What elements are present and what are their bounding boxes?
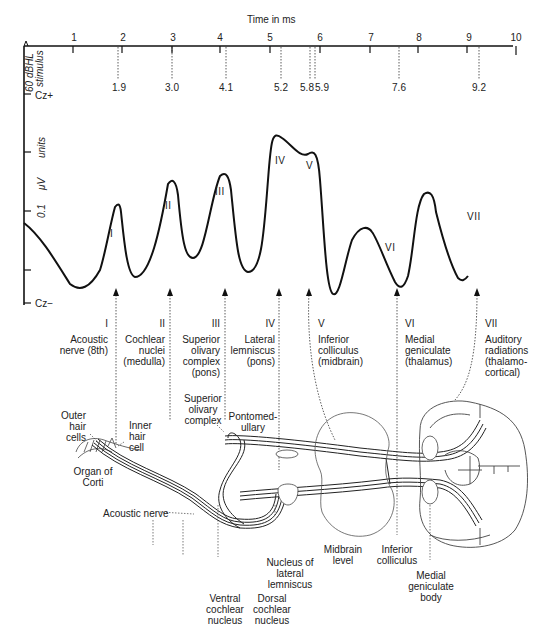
generator-line: Lateral	[220, 334, 275, 345]
generator-line: complex	[165, 356, 220, 367]
label-acoustic-nerve: Acoustic nerve	[103, 508, 169, 519]
generator-roman: I	[48, 318, 108, 329]
wave-label-iv: IV	[275, 155, 285, 166]
label-line: Inferior	[370, 544, 424, 555]
label-line: lemniscus	[262, 579, 318, 590]
scale-unit-label: μV	[36, 178, 47, 190]
scale-units-label: units	[36, 137, 47, 158]
wave-label-vi: VI	[385, 242, 395, 253]
generator-line: colliculus	[318, 345, 383, 356]
label-line: Nucleus of	[262, 557, 318, 568]
x-tick: 10	[510, 32, 521, 43]
label-line: olivary	[178, 404, 228, 415]
label-line: geniculate	[403, 581, 459, 592]
generator-iii: III Superior olivary complex (pons)	[165, 318, 220, 378]
x-axis-title: Time in ms	[247, 14, 296, 25]
label-ventral-cochlear-nucleus: Ventral cochlear nucleus	[203, 593, 247, 626]
cz-minus-label: Cz−	[35, 298, 53, 309]
label-pontomedullary: Pontomed- ullary	[226, 411, 280, 433]
generator-line: nuclei	[110, 345, 165, 356]
generator-i: I Acoustic nerve (8th)	[48, 318, 108, 356]
generator-roman: VII	[485, 318, 544, 329]
x-tick: 7	[368, 32, 374, 43]
x-tick: 1	[71, 32, 77, 43]
generator-roman: V	[318, 318, 383, 329]
generator-line: (midbrain)	[318, 356, 383, 367]
label-line: colliculus	[370, 555, 424, 566]
label-line: ullary	[226, 422, 280, 433]
generator-line: geniculate	[405, 345, 470, 356]
arrowheads	[113, 288, 480, 296]
wave-label-ii: II	[165, 200, 172, 211]
label-line: cochlear	[250, 604, 294, 615]
generator-roman: IV	[220, 318, 275, 329]
wave-label-vii: VII	[467, 211, 481, 222]
generator-line: Superior	[165, 334, 220, 345]
latency-value: 1.9	[112, 82, 126, 93]
label-line: Pontomed-	[226, 411, 280, 422]
cz-plus-label: Cz+	[35, 90, 53, 101]
label-inner-hair-cell: Inner hair cell	[129, 420, 169, 453]
generator-line: radiations	[485, 345, 544, 356]
generator-line: Cochlear	[110, 334, 165, 345]
latency-value: 7.6	[392, 82, 406, 93]
label-midbrain-level: Midbrain level	[318, 544, 368, 566]
wave-label-v: V	[306, 160, 313, 171]
generator-line: olivary	[165, 345, 220, 356]
x-tick: 4	[217, 32, 223, 43]
label-outer-hair-cells: Outer hair cells	[50, 410, 86, 443]
x-tick: 9	[466, 32, 472, 43]
label-medial-geniculate-body: Medial geniculate body	[403, 570, 459, 603]
label-line: cell	[129, 442, 169, 453]
generator-vii: VII Auditory radiations (thalamo- cortic…	[485, 318, 544, 378]
generator-ii: II Cochlear nuclei (medulla)	[110, 318, 165, 367]
generator-line: Medial	[405, 334, 470, 345]
stimulus-sub-label: stimulus	[34, 50, 45, 87]
generator-line: (thalamus)	[405, 356, 470, 367]
label-inferior-colliculus: Inferior colliculus	[370, 544, 424, 566]
label-line: cells	[50, 432, 86, 443]
label-line: nucleus	[203, 615, 247, 626]
generator-line: Auditory	[485, 334, 544, 345]
label-line: cochlear	[203, 604, 247, 615]
label-line: Organ of	[66, 466, 120, 477]
generator-v: V Inferior colliculus (midbrain)	[318, 318, 383, 367]
generator-roman: II	[110, 318, 165, 329]
label-line: Midbrain	[318, 544, 368, 555]
label-line: Dorsal	[250, 593, 294, 604]
brain-section	[419, 401, 527, 547]
label-line: level	[318, 555, 368, 566]
label-line: Corti	[66, 477, 120, 488]
latency-value: 5.8	[300, 82, 314, 93]
generator-line: (pons)	[165, 367, 220, 378]
wave-label-iii: III	[215, 186, 225, 197]
midbrain-outline	[315, 413, 394, 537]
x-tick: 3	[170, 32, 176, 43]
latency-value: 4.1	[219, 82, 233, 93]
label-line: Ventral	[203, 593, 247, 604]
label-line: body	[403, 592, 459, 603]
generator-line: cortical)	[485, 367, 544, 378]
generator-line: (medulla)	[110, 356, 165, 367]
generator-line: (pons)	[220, 356, 275, 367]
generator-roman: III	[165, 318, 220, 329]
label-line: complex	[178, 415, 228, 426]
generator-line: lemniscus	[220, 345, 275, 356]
label-line: nucleus	[250, 615, 294, 626]
generator-line: Acoustic	[48, 334, 108, 345]
label-nucleus-lateral-lemniscus: Nucleus of lateral lemniscus	[262, 557, 318, 590]
time-axis	[24, 41, 516, 55]
label-line: lateral	[262, 568, 318, 579]
wave-label-i: I	[110, 228, 113, 239]
label-superior-olivary-complex: Superior olivary complex	[178, 393, 228, 426]
scale-value-label: 0.1	[36, 204, 47, 218]
nuclei	[276, 436, 438, 505]
latency-value: 5.9	[315, 82, 329, 93]
label-line: Superior	[178, 393, 228, 404]
generator-vi: VI Medial geniculate (thalamus)	[405, 318, 470, 367]
generator-line: (thalamo-	[485, 356, 544, 367]
generator-line: Inferior	[318, 334, 383, 345]
label-dorsal-cochlear-nucleus: Dorsal cochlear nucleus	[250, 593, 294, 626]
latency-value: 5.2	[274, 82, 288, 93]
latency-value: 9.2	[472, 82, 486, 93]
